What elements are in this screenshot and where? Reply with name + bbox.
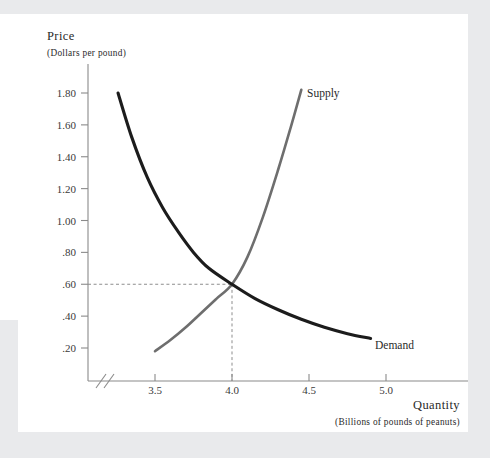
y-tick-label: .40 — [62, 310, 76, 322]
x-axis-units-label: (Billions of pounds of peanuts) — [335, 417, 460, 428]
y-tick-label: 1.20 — [57, 183, 77, 195]
x-tick-label: 5.0 — [379, 384, 393, 396]
x-tick-label: 4.5 — [302, 384, 316, 396]
x-tick-label: 4.0 — [225, 384, 239, 396]
y-tick-label: 1.00 — [57, 215, 77, 227]
x-axis-ticks: 3.54.04.55.0 — [148, 374, 393, 396]
y-tick-label: .80 — [62, 246, 76, 258]
x-tick-label: 3.5 — [148, 384, 162, 396]
demand-curve — [118, 93, 371, 338]
x-axis-title: Quantity — [413, 398, 460, 412]
curve-group — [118, 90, 371, 351]
equilibrium-guide-lines — [88, 284, 232, 381]
y-tick-label: 1.40 — [57, 151, 77, 163]
supply-curve — [155, 90, 301, 351]
y-tick-label: .60 — [62, 278, 76, 290]
y-tick-label: 1.60 — [57, 119, 77, 131]
y-tick-label: 1.80 — [57, 87, 77, 99]
supply-curve-label: Supply — [307, 87, 340, 100]
y-axis-title: Price — [47, 29, 75, 43]
y-tick-label: .20 — [62, 342, 76, 354]
y-axis-ticks: 1.801.601.401.201.00.80.60.40.20 — [57, 87, 88, 354]
chart-canvas: Price (Dollars per pound) Quantity (Bill… — [0, 0, 490, 458]
demand-curve-label: Demand — [375, 339, 414, 351]
supply-demand-chart: Price (Dollars per pound) Quantity (Bill… — [0, 0, 490, 458]
y-axis-units-label: (Dollars per pound) — [47, 48, 126, 59]
